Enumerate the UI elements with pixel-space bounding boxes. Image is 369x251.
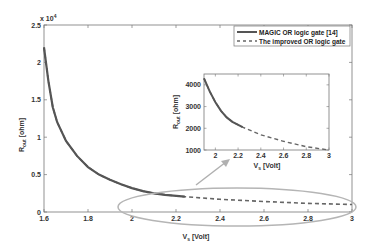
inset-x-tick-label: 2.8 [301, 152, 311, 159]
resistance-vs-voltage-chart: 1.61.822.22.42.62.8300.511.522.5 x 104 R… [0, 0, 369, 251]
y-multiplier-label: x 104 [40, 13, 57, 22]
legend-item-improved: The improved OR logic gate [259, 38, 346, 46]
x-tick-label: 2.6 [259, 215, 269, 222]
legend: MAGIC OR logic gate [14] The improved OR… [234, 26, 350, 46]
y-tick-label: 2 [37, 59, 41, 66]
inset-y-tick-label: 2000 [185, 125, 201, 132]
zoom-arrow [196, 159, 230, 185]
x-tick-label: 1.6 [39, 215, 49, 222]
inset-x-tick-label: 3 [327, 152, 331, 159]
highlight-ellipse [118, 188, 356, 226]
y-tick-label: 0 [37, 209, 41, 216]
inset-x-axis-label: Vs [Volt] [254, 162, 281, 171]
inset-x-tick-label: 2.2 [233, 152, 243, 159]
x-tick-label: 2.2 [171, 215, 181, 222]
inset-y-axis-label: Rout [ohm] [172, 95, 181, 129]
x-tick-label: 2.8 [303, 215, 313, 222]
y-tick-label: 2.5 [31, 22, 41, 29]
inset-x-tick-label: 2.4 [256, 152, 266, 159]
inset-y-tick-label: 1000 [185, 147, 201, 154]
inset-y-tick-label: 4000 [185, 81, 201, 88]
x-tick-label: 1.8 [83, 215, 93, 222]
legend-item-magic: MAGIC OR logic gate [14] [259, 29, 338, 37]
x-tick-label: 2.4 [215, 215, 225, 222]
y-tick-label: 0.5 [31, 171, 41, 178]
y-axis-label: Rout [ohm] [18, 118, 27, 152]
inset-x-tick-label: 2.6 [279, 152, 289, 159]
inset-x-tick-label: 2 [213, 152, 217, 159]
y-tick-label: 1.5 [31, 96, 41, 103]
x-axis-label: Vs [Volt] [183, 233, 210, 242]
inset-y-tick-label: 3000 [185, 103, 201, 110]
y-tick-label: 1 [37, 134, 41, 141]
x-tick-label: 3 [350, 215, 354, 222]
